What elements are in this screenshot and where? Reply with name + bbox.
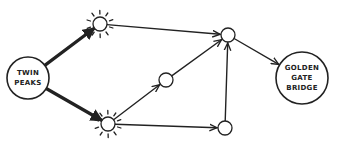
edge-bottom-left-to-middle bbox=[114, 85, 160, 120]
edge-twin-peaks-to-top-left bbox=[45, 29, 94, 66]
highlight-ray bbox=[114, 113, 116, 116]
node-middle bbox=[159, 73, 173, 87]
highlight-ray bbox=[118, 127, 121, 128]
edge-top-left-to-top-right bbox=[107, 25, 220, 35]
highlight-ray bbox=[95, 120, 98, 121]
highlight-ray bbox=[92, 13, 94, 16]
highlight-ray bbox=[95, 127, 98, 128]
highlight-ray bbox=[114, 132, 116, 135]
highlight-ray bbox=[106, 32, 108, 35]
node-bottom-right bbox=[218, 121, 232, 135]
node-top-left bbox=[93, 17, 107, 31]
highlight-ray bbox=[106, 13, 108, 16]
node-top-right bbox=[221, 28, 235, 42]
twin-peaks-label-line2: PEAKS bbox=[8, 78, 48, 88]
edge-bottom-left-to-bottom-right bbox=[115, 124, 217, 128]
highlight-ray bbox=[110, 20, 113, 21]
highlight-ray bbox=[100, 113, 102, 116]
golden-gate-label-line3: BRIDGE bbox=[278, 83, 326, 93]
highlight-ray bbox=[110, 27, 113, 28]
edge-bottom-right-to-top-right bbox=[225, 43, 228, 121]
highlight-ray bbox=[100, 132, 102, 135]
node-bottom-left bbox=[101, 117, 115, 131]
golden-gate-label-line1: GOLDEN bbox=[278, 63, 326, 73]
golden-gate-label-line2: GATE bbox=[278, 73, 326, 83]
highlight-ray bbox=[87, 20, 90, 21]
twin-peaks-label-line1: TWIN bbox=[8, 68, 48, 78]
edge-middle-to-top-right bbox=[172, 40, 222, 76]
highlight-ray bbox=[92, 32, 94, 35]
edge-twin-peaks-to-bottom-left bbox=[46, 89, 101, 121]
highlight-ray bbox=[87, 27, 90, 28]
golden-gate-bridge-label: GOLDEN GATE BRIDGE bbox=[278, 63, 326, 93]
edge-top-right-to-golden-gate-bridge bbox=[234, 39, 279, 65]
highlight-ray bbox=[118, 120, 121, 121]
twin-peaks-label: TWIN PEAKS bbox=[8, 68, 48, 88]
